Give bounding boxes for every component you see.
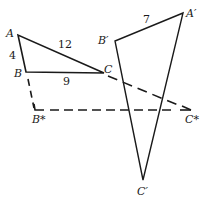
triangle-a-prime-b-prime-c-prime bbox=[115, 13, 183, 180]
length-a-prime-b-prime: 7 bbox=[143, 13, 150, 26]
label-b-star: B* bbox=[31, 113, 46, 126]
corner-b-star bbox=[34, 104, 44, 110]
label-b-prime: B′ bbox=[97, 34, 109, 47]
length-ab: 4 bbox=[9, 49, 16, 62]
label-a-prime: A′ bbox=[185, 7, 197, 20]
label-c-prime: C′ bbox=[137, 185, 148, 198]
length-ac: 12 bbox=[58, 38, 72, 51]
label-c: C bbox=[104, 63, 113, 76]
label-b: B bbox=[13, 67, 22, 80]
label-c-star: C* bbox=[185, 113, 199, 126]
label-a: A bbox=[5, 27, 14, 40]
geometry-diagram: A B C A′ B′ C′ B* C* 4 12 9 7 bbox=[0, 0, 214, 206]
dashed-line-b-to-b-star bbox=[28, 79, 34, 108]
length-bc: 9 bbox=[63, 75, 70, 88]
